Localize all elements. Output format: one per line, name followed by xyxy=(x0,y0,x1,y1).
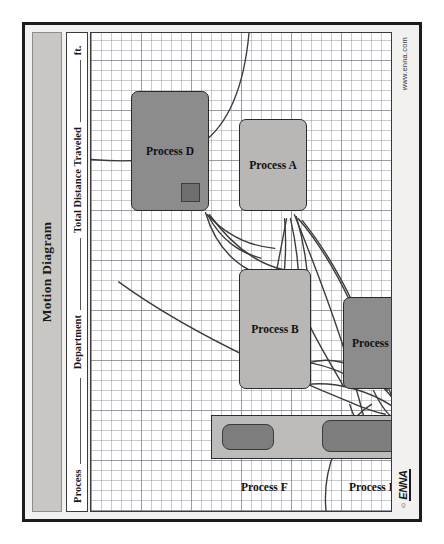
process-box-c-label: Process C xyxy=(352,337,392,349)
process-box-d-label: Process D xyxy=(146,145,194,157)
field-process-label: Process xyxy=(72,469,83,503)
screenshot-page: Motion Diagram Process Department Total … xyxy=(0,0,444,544)
process-box-a[interactable]: Process A xyxy=(239,119,307,211)
header-field-row: Process Department Total Distance Travel… xyxy=(66,32,88,512)
field-department: Department xyxy=(71,233,83,369)
diagram-grid-area[interactable]: Process D Process A Process B Process C xyxy=(90,32,392,512)
process-pill-f[interactable] xyxy=(222,424,274,450)
field-total-distance-label: Total Distance Traveled xyxy=(72,127,83,233)
field-process-rule[interactable] xyxy=(71,378,81,464)
field-department-label: Department xyxy=(72,315,83,369)
process-box-c[interactable]: Process C xyxy=(343,297,392,389)
page-title: Motion Diagram xyxy=(39,222,55,323)
document-title-bar: Motion Diagram xyxy=(32,32,62,512)
motion-diagram-sheet: Motion Diagram Process Department Total … xyxy=(22,22,422,522)
field-total-distance-rule[interactable] xyxy=(71,60,81,122)
process-e-label: Process E xyxy=(349,481,392,493)
field-process: Process xyxy=(71,373,83,503)
website-url[interactable]: www.enna.com xyxy=(400,37,409,90)
enna-logo: © ENNA xyxy=(397,470,411,509)
process-box-a-label: Process A xyxy=(249,159,296,171)
process-box-b-label: Process B xyxy=(251,323,298,335)
process-f-label: Process F xyxy=(241,481,288,493)
process-bar-zone[interactable] xyxy=(211,415,392,459)
sheet-inner: Motion Diagram Process Department Total … xyxy=(32,32,412,512)
process-pill-e[interactable] xyxy=(322,420,392,452)
process-box-d-chip xyxy=(181,183,200,202)
field-total-distance: Total Distance Traveled ft. xyxy=(71,46,83,234)
process-box-b[interactable]: Process B xyxy=(239,269,311,389)
field-department-rule[interactable] xyxy=(71,238,81,310)
field-units-label: ft. xyxy=(72,46,83,56)
process-box-d[interactable]: Process D xyxy=(131,91,209,211)
copyright-symbol: © xyxy=(400,503,408,508)
enna-wordmark: ENNA xyxy=(397,470,411,501)
